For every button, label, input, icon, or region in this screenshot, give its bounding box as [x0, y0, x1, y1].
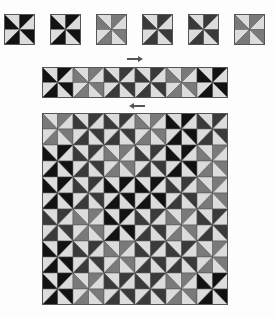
tile-4 — [142, 14, 173, 45]
tile-5 — [188, 14, 219, 45]
quilt-grid — [42, 113, 228, 305]
tile-3 — [96, 14, 127, 45]
tile-1 — [4, 14, 35, 45]
tile-strip — [42, 67, 228, 98]
arrow-right — [127, 58, 141, 60]
arrow-left — [131, 105, 145, 107]
tile-2 — [50, 14, 81, 45]
tile-6 — [234, 14, 265, 45]
